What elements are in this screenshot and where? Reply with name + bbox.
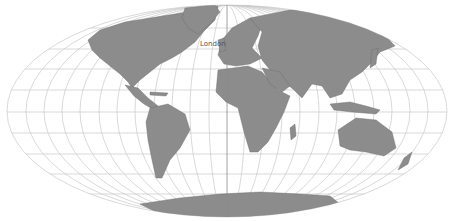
central-america bbox=[125, 85, 158, 110]
world-map[interactable]: London bbox=[0, 0, 451, 221]
australia bbox=[338, 118, 396, 156]
antarctica bbox=[140, 192, 340, 218]
new-zealand bbox=[398, 152, 412, 170]
city-label-london[interactable]: London bbox=[200, 40, 226, 48]
madagascar bbox=[290, 124, 296, 140]
south-america bbox=[146, 104, 190, 178]
map-canvas[interactable] bbox=[0, 0, 451, 221]
caribbean bbox=[150, 92, 168, 96]
